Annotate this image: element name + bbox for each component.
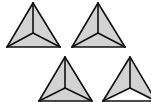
tetrahedron-1 <box>7 3 60 47</box>
tetrahedron-4 <box>103 57 151 101</box>
tetrahedra-diagram <box>0 0 151 102</box>
tetrahedron-3 <box>39 57 92 101</box>
tetrahedron-2 <box>72 3 125 47</box>
